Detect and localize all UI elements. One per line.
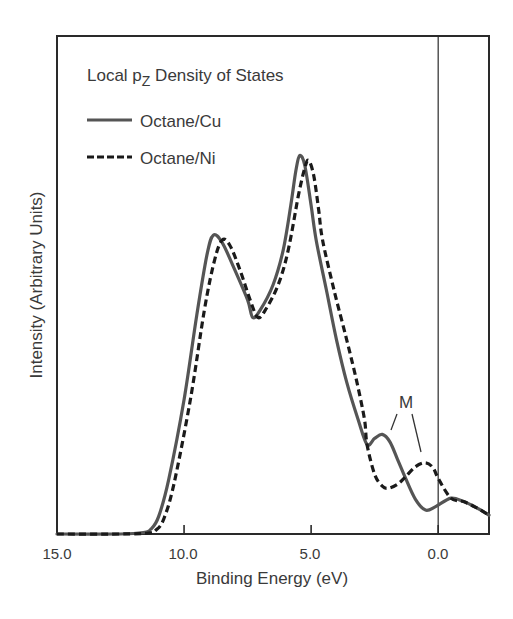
m-annotation-label: M	[399, 393, 413, 412]
x-tick-label-15: 15.0	[42, 545, 71, 562]
x-axis-ticks	[184, 525, 438, 534]
legend-label-octane-ni: Octane/Ni	[140, 149, 216, 168]
m-annotation: M	[391, 393, 421, 452]
legend-label-octane-cu: Octane/Cu	[140, 112, 221, 131]
x-tick-label-5: 5.0	[300, 545, 321, 562]
legend-title-main: Local p	[87, 66, 142, 85]
legend-title: Local pZ Density of States	[87, 66, 284, 89]
x-tick-label-10: 10.0	[168, 545, 197, 562]
y-axis-title: Intensity (Arbitrary Units)	[27, 191, 46, 378]
series-line-octane-cu	[57, 155, 489, 534]
x-axis-tick-labels: 15.0 10.0 5.0 0.0	[42, 545, 448, 562]
legend: Local pZ Density of States Octane/Cu Oct…	[87, 66, 284, 168]
x-axis-title: Binding Energy (eV)	[196, 569, 348, 588]
binding-energy-chart: 15.0 10.0 5.0 0.0 Binding Energy (eV) In…	[0, 0, 513, 619]
m-annotation-pointer-cu	[391, 414, 397, 430]
m-annotation-pointer-ni	[412, 414, 421, 452]
x-tick-label-0: 0.0	[428, 545, 449, 562]
legend-title-rest: Density of States	[150, 66, 283, 85]
series-line-octane-ni	[57, 160, 489, 534]
